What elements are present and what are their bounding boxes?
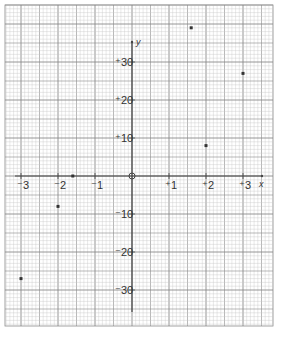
y-tick-label: ⁺10 (115, 132, 133, 144)
data-point (190, 26, 193, 29)
data-point (71, 175, 74, 178)
y-tick-label: ⁻20 (115, 246, 133, 258)
y-tick-label: ⁺30 (115, 56, 133, 68)
y-tick-label: ⁻30 (115, 284, 133, 296)
x-tick-label: ⁻2 (54, 179, 66, 191)
x-tick-label: ⁺2 (202, 179, 214, 191)
x-tick-label: ⁻3 (17, 179, 29, 191)
x-axis-label: x (258, 179, 264, 189)
data-point (242, 72, 245, 75)
x-tick-label: ⁺1 (165, 179, 177, 191)
grid-border (5, 5, 273, 326)
coordinate-plane-chart: xy ⁻3⁻2⁻1⁺1⁺2⁺3⁺30⁺20⁺10⁻10⁻20⁻30 (0, 0, 287, 342)
data-point (20, 277, 23, 280)
x-tick-label: ⁺3 (239, 179, 251, 191)
data-point (205, 144, 208, 147)
data-point (57, 205, 60, 208)
y-axis-label: y (135, 37, 141, 47)
x-tick-label: ⁻1 (91, 179, 103, 191)
y-tick-label: ⁻10 (115, 208, 133, 220)
graph-paper-grid (5, 5, 273, 326)
y-tick-label: ⁺20 (115, 94, 133, 106)
